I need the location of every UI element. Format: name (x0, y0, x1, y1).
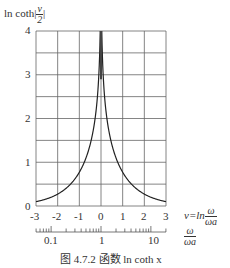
x-tick-1: 1 (120, 210, 126, 222)
y-tick-1: 1 (25, 156, 31, 168)
x-tick-3: 3 (163, 210, 169, 222)
x-tick-neg3: -3 (30, 210, 39, 222)
y-tick-2: 2 (25, 112, 31, 124)
y-tick-3: 3 (25, 68, 31, 80)
x-title-fraction: ωωa (205, 206, 217, 227)
figure-caption: 图 4.7.2 函数 ln coth x (60, 250, 162, 266)
sec-tick-0.1: 0.1 (44, 234, 58, 246)
x-tick-0: 0 (98, 210, 104, 222)
x-title-den: ωa (205, 216, 217, 227)
sec-tick-10: 10 (148, 234, 159, 246)
sec-tick-1: 1 (99, 234, 105, 246)
secondary-axis-title: ωωa (184, 226, 196, 247)
y-tick-4: 4 (25, 24, 31, 36)
x-title-prefix: v=ln (184, 209, 205, 221)
x-axis-title: v=lnωωa (184, 206, 217, 227)
x-tick-neg2: -2 (52, 210, 61, 222)
x-tick-2: 2 (141, 210, 147, 222)
sec-title-den: ωa (184, 236, 196, 247)
x-tick-neg1: -1 (74, 210, 83, 222)
sec-title-fraction: ωωa (184, 226, 196, 247)
